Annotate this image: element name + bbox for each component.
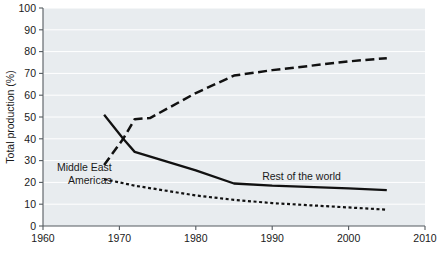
chart-figure: 0102030405060708090100 19601970198019902… xyxy=(0,0,445,256)
series-label-rest-of-the-world: Rest of the world xyxy=(262,170,341,182)
y-tick-label: 40 xyxy=(24,133,36,145)
y-axis-title: Total production (%) xyxy=(4,70,16,163)
y-tick-label: 90 xyxy=(24,24,36,36)
y-tick-label: 20 xyxy=(24,176,36,188)
x-tick-label: 1980 xyxy=(184,232,208,244)
x-tick-label: 2010 xyxy=(413,232,437,244)
y-tick-label: 10 xyxy=(24,198,36,210)
x-tick-label: 2000 xyxy=(337,232,361,244)
x-tick-label: 1970 xyxy=(108,232,132,244)
y-tick-label: 0 xyxy=(30,220,36,232)
y-tick-label: 30 xyxy=(24,154,36,166)
x-axis-ticks: 196019701980199020002010 xyxy=(31,226,437,244)
y-tick-label: 50 xyxy=(24,111,36,123)
y-tick-label: 70 xyxy=(24,67,36,79)
y-tick-label: 100 xyxy=(18,2,36,14)
y-tick-label: 80 xyxy=(24,45,36,57)
y-axis-ticks: 0102030405060708090100 xyxy=(18,2,43,232)
x-tick-label: 1990 xyxy=(261,232,285,244)
x-tick-label: 1960 xyxy=(31,232,55,244)
production-line-chart: 0102030405060708090100 19601970198019902… xyxy=(0,0,445,256)
y-tick-label: 60 xyxy=(24,89,36,101)
series-label-middle-east: Middle East xyxy=(57,161,112,173)
series-label-americas: Americas xyxy=(68,174,112,186)
